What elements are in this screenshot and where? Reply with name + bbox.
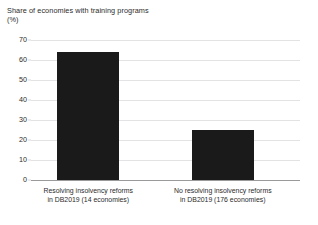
y-axis-tick-mark — [28, 100, 31, 101]
y-axis-tick-label: 70 — [19, 36, 27, 44]
x-axis-category-label-0: Resolving insolvency reforms in DB2019 (… — [13, 186, 163, 205]
chart-title: Share of economies with training program… — [7, 6, 307, 24]
y-axis-tick-mark — [28, 60, 31, 61]
chart-figure: Share of economies with training program… — [0, 0, 318, 225]
y-axis-tick-mark — [28, 160, 31, 161]
y-axis-tick-label: 30 — [19, 116, 27, 124]
y-axis-tick-label: 0 — [23, 176, 27, 184]
y-axis-tick-label: 60 — [19, 56, 27, 64]
y-axis-tick-mark — [28, 40, 31, 41]
y-axis-tick-label: 50 — [19, 76, 27, 84]
bar-0 — [57, 52, 119, 180]
y-axis-tick-label: 40 — [19, 96, 27, 104]
plot-area: 010203040506070 — [31, 40, 300, 180]
y-axis-tick-mark — [28, 80, 31, 81]
y-axis-tick-mark — [28, 180, 31, 181]
x-axis-category-label-1: No resolving insolvency reforms in DB201… — [148, 186, 298, 205]
x-axis-baseline — [31, 180, 300, 181]
y-axis-tick-mark — [28, 140, 31, 141]
gridline — [31, 40, 300, 41]
y-axis-tick-mark — [28, 120, 31, 121]
bar-1 — [192, 130, 254, 180]
y-axis-tick-label: 20 — [19, 136, 27, 144]
y-axis-tick-label: 10 — [19, 156, 27, 164]
